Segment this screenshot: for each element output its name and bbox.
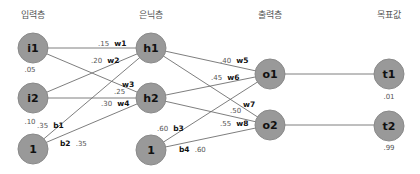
weight-name-w7: w7 xyxy=(243,100,255,109)
node-i1: i1 xyxy=(18,33,48,63)
node-h2: h2 xyxy=(136,83,166,113)
edge-w5 xyxy=(151,48,270,74)
node-label-bias-input: 1 xyxy=(29,143,37,156)
weight-label-w6: .45 w6 xyxy=(211,65,239,84)
node-label-bias-hidden: 1 xyxy=(147,144,155,157)
node-label-i2: i2 xyxy=(27,92,38,105)
node-t1: t1 xyxy=(374,59,404,89)
node-label-o2: o2 xyxy=(262,119,277,132)
weight-label-b1: .35 b1 xyxy=(37,113,64,132)
node-label-t1: t1 xyxy=(383,68,396,81)
node-o2: o2 xyxy=(255,110,285,140)
layer-title-output: 출력층 xyxy=(258,9,282,20)
node-label-t2: t2 xyxy=(383,120,396,133)
node-bias-input: 1 xyxy=(18,134,48,164)
node-i2: i2 xyxy=(18,83,48,113)
node-label-o1: o1 xyxy=(262,68,277,81)
edge-b3 xyxy=(151,74,270,150)
neural-network-diagram: 입력층 은닉층 출력층 목표값 .15 w1 .20 w2 w3 .25 .30… xyxy=(0,0,420,174)
edge-w7 xyxy=(151,48,270,125)
weight-label-w2: .20 w2 xyxy=(91,48,119,67)
target-value-t2: .99 xyxy=(383,144,394,152)
layer-title-target: 목표값 xyxy=(377,9,401,20)
weight-label-w8: .55 w8 xyxy=(220,111,248,130)
layer-title-hidden: 은닉층 xyxy=(139,10,163,20)
node-label-h2: h2 xyxy=(143,92,159,105)
layer-title-input: 입력층 xyxy=(21,9,45,20)
weight-label-b3: .60 b3 xyxy=(157,116,184,135)
node-h1: h1 xyxy=(136,33,166,63)
weight-label-b4: b4 .60 xyxy=(179,137,206,156)
input-value-i2: .10 xyxy=(24,118,35,126)
target-value-t1: .01 xyxy=(383,93,394,101)
weight-label-b2: b2 .35 xyxy=(60,131,87,150)
node-o1: o1 xyxy=(255,59,285,89)
input-value-i1: .05 xyxy=(24,66,35,74)
node-label-h1: h1 xyxy=(143,42,159,55)
node-bias-hidden: 1 xyxy=(136,135,166,165)
node-label-i1: i1 xyxy=(27,42,38,55)
node-t2: t2 xyxy=(374,111,404,141)
